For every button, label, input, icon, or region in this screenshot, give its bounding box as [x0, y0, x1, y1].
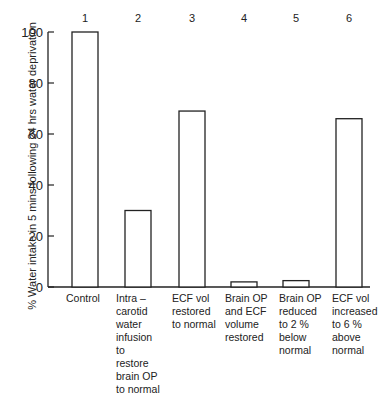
y-axis-label: % Water intake in 5 mins following 24 hr…	[26, 16, 38, 316]
bar	[336, 119, 362, 287]
bar	[283, 281, 309, 287]
category-label: Brain OP reduced to 2 % below normal	[279, 292, 322, 357]
category-label: Intra – carotid water infusion to restor…	[116, 292, 160, 396]
bar-number: 6	[346, 12, 352, 24]
bar-number: 4	[241, 12, 247, 24]
bar-number: 5	[293, 12, 299, 24]
bar	[179, 111, 205, 287]
bar	[125, 211, 151, 288]
bar-number: 2	[135, 12, 141, 24]
bar-number: 1	[82, 12, 88, 24]
bar-number: 3	[189, 12, 195, 24]
category-label: ECF vol restored to normal	[172, 292, 216, 331]
category-label: Control	[66, 292, 100, 305]
bar	[231, 282, 257, 287]
bar	[72, 32, 98, 287]
category-label: Brain OP and ECF volume restored	[225, 292, 268, 344]
category-label: ECF vol increased to 6 % above normal	[332, 292, 378, 357]
